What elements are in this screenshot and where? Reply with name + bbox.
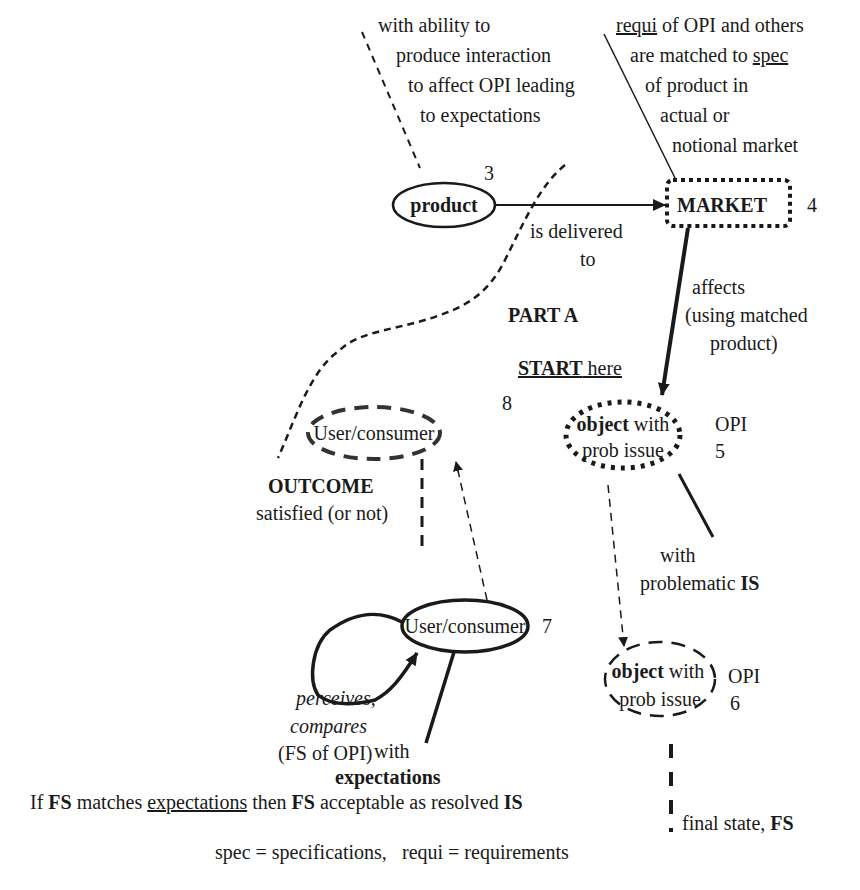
svg-text:to expectations: to expectations — [420, 104, 541, 127]
svg-text:product): product) — [710, 332, 778, 355]
svg-text:3: 3 — [484, 162, 494, 184]
svg-text:object with: object with — [612, 660, 705, 683]
user-consumer-8-node: User/consumer 8 — [308, 392, 512, 459]
svg-text:to: to — [580, 248, 596, 270]
svg-text:with: with — [660, 544, 696, 566]
svg-text:actual or: actual or — [660, 104, 730, 126]
svg-text:expectations: expectations — [335, 766, 441, 789]
user-consumer-7-node: User/consumer 7 — [402, 600, 552, 652]
svg-text:are matched to spec: are matched to spec — [630, 44, 788, 67]
svg-text:problematic IS: problematic IS — [640, 572, 759, 595]
svg-text:OPI: OPI — [728, 665, 760, 687]
svg-text:requi of OPI and others: requi of OPI and others — [616, 14, 804, 37]
legend-spec: spec = specifications, — [215, 841, 387, 864]
svg-text:4: 4 — [807, 194, 817, 216]
svg-text:affects: affects — [692, 276, 745, 298]
product-ability-annotation: with ability to produce interaction to a… — [378, 14, 575, 127]
svg-text:perceives,: perceives, — [294, 687, 376, 710]
object-with-prob-issue-6-node: object with prob issue OPI 6 — [605, 642, 760, 716]
svg-text:OPI: OPI — [715, 413, 747, 435]
svg-text:5: 5 — [715, 440, 725, 462]
svg-text:object with: object with — [577, 413, 670, 436]
svg-text:MARKET: MARKET — [677, 194, 768, 216]
svg-text:product: product — [410, 194, 478, 217]
legend-requi: requi = requirements — [402, 841, 569, 864]
svg-text:of product in: of product in — [645, 74, 748, 97]
problematic-is-leader — [679, 474, 713, 537]
svg-text:to affect OPI leading: to affect OPI leading — [408, 74, 575, 97]
svg-text:compares: compares — [290, 715, 367, 738]
svg-text:User/consumer: User/consumer — [313, 422, 434, 444]
marketing-flow-diagram: with ability to produce interaction to a… — [0, 0, 860, 890]
product-node: product 3 — [393, 162, 495, 227]
svg-text:is delivered: is delivered — [530, 220, 623, 242]
acceptance-rule: If FS matches expectations then FS accep… — [30, 791, 523, 814]
svg-text:with: with — [374, 740, 410, 762]
market-match-annotation: requi of OPI and others are matched to s… — [616, 14, 804, 156]
svg-text:User/consumer: User/consumer — [404, 615, 525, 637]
svg-text:notional market: notional market — [672, 134, 799, 156]
svg-text:with ability to: with ability to — [378, 14, 490, 37]
expectations-leader — [426, 652, 454, 743]
part-a-label: PART A — [508, 304, 579, 326]
svg-text:produce interaction: produce interaction — [396, 44, 551, 67]
svg-text:prob issue: prob issue — [582, 439, 664, 462]
object-with-prob-issue-5-node: object with prob issue OPI 5 — [566, 402, 747, 468]
outcome-title: OUTCOME — [268, 475, 374, 497]
svg-text:6: 6 — [730, 692, 740, 714]
svg-text:prob issue: prob issue — [619, 688, 701, 711]
outcome-sub: satisfied (or not) — [256, 502, 388, 525]
svg-text:(FS of OPI): (FS of OPI) — [278, 742, 372, 765]
start-here-label: START here — [518, 357, 622, 379]
feedback-arrow — [456, 462, 487, 600]
svg-text:7: 7 — [542, 615, 552, 637]
transform-arrow — [608, 485, 624, 646]
svg-text:(using matched: (using matched — [685, 304, 808, 327]
market-node: MARKET 4 — [667, 180, 817, 226]
svg-text:8: 8 — [502, 392, 512, 414]
svg-text:final state, FS: final state, FS — [682, 812, 794, 834]
